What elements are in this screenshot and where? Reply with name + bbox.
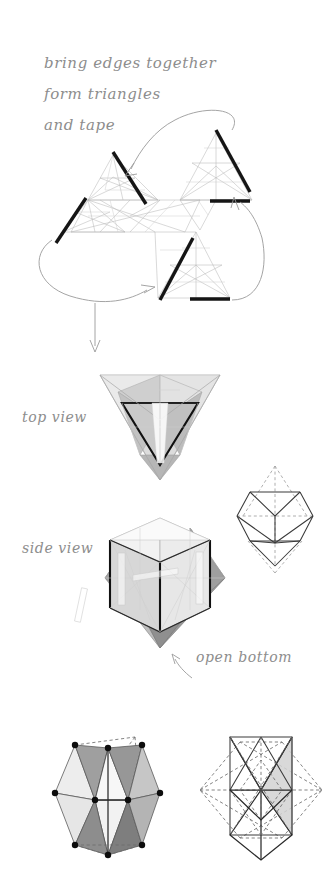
figure-wireframe-hexagon bbox=[200, 737, 322, 860]
figure-shaded-polyhedron bbox=[52, 737, 163, 858]
vertex-dot bbox=[105, 745, 111, 751]
net-bold-edge-2 bbox=[56, 198, 86, 243]
vertex-dot bbox=[157, 790, 163, 796]
label-open-bottom: open bottom bbox=[196, 649, 292, 665]
net-bold-edge-5 bbox=[160, 238, 193, 300]
net-center-lattice bbox=[71, 200, 200, 232]
net-unit-left bbox=[56, 152, 158, 243]
tape-strip-outer bbox=[75, 588, 88, 623]
vertex-dot bbox=[105, 852, 111, 858]
instruction-line-1: bring edges together bbox=[44, 54, 217, 72]
vertex-dot bbox=[139, 842, 145, 848]
net-bold-edge-3 bbox=[216, 130, 250, 192]
tape-strip-left bbox=[118, 553, 125, 605]
net-arrows bbox=[39, 110, 264, 352]
vertex-dot bbox=[125, 797, 131, 803]
figure-wireframe-octahedron bbox=[237, 466, 313, 573]
drawing-canvas: bring edges together form triangles and … bbox=[0, 0, 326, 869]
vertex-dot bbox=[72, 742, 78, 748]
vertex-dot bbox=[139, 742, 145, 748]
instruction-line-3: and tape bbox=[44, 116, 115, 134]
figure-net bbox=[39, 110, 264, 352]
net-unit-bottom bbox=[155, 232, 230, 300]
net-unit-right bbox=[180, 130, 252, 230]
figure-top-view bbox=[100, 375, 220, 480]
vertex-dot bbox=[72, 842, 78, 848]
label-top-view: top view bbox=[22, 409, 87, 425]
vertex-dot bbox=[52, 790, 58, 796]
instruction-line-2: form triangles bbox=[43, 85, 161, 103]
label-side-view: side view bbox=[22, 540, 93, 556]
instruction-sheet: bring edges together form triangles and … bbox=[0, 0, 326, 869]
tape-strip-right bbox=[196, 552, 203, 604]
vertex-dot bbox=[92, 797, 98, 803]
